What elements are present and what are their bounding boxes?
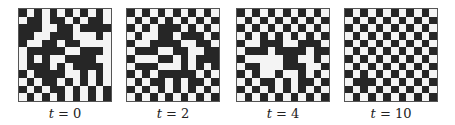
grid-cell <box>391 93 399 101</box>
grid-cell <box>345 47 353 55</box>
panel-label: t = 2 <box>126 106 220 121</box>
grid-cell <box>142 86 150 94</box>
grid-cell <box>65 17 73 25</box>
grid-cell <box>429 78 437 86</box>
grid-cell <box>65 9 73 17</box>
grid-cell <box>422 24 430 32</box>
grid-cell <box>19 55 27 63</box>
grid-cell <box>127 86 135 94</box>
panel-t0: t = 0 <box>18 8 114 102</box>
grid-cell <box>275 17 283 25</box>
grid-cell <box>150 93 158 101</box>
grid-cell <box>429 9 437 17</box>
grid-cell <box>173 78 181 86</box>
grid-cell <box>422 9 430 17</box>
grid-cell <box>150 55 158 63</box>
grid-cell <box>27 24 35 32</box>
grid-cell <box>391 78 399 86</box>
grid-cell <box>196 47 204 55</box>
grid-cell <box>19 9 27 17</box>
grid-cell <box>173 93 181 101</box>
grid-cell <box>73 47 81 55</box>
panel-t4: t = 4 <box>236 8 332 102</box>
grid-cell <box>27 17 35 25</box>
grid-cell <box>135 63 143 71</box>
grid-cell <box>383 32 391 40</box>
grid-cell <box>19 86 27 94</box>
grid-cell <box>127 17 135 25</box>
grid-cell <box>237 40 245 48</box>
grid-cell <box>204 93 212 101</box>
grid-cell <box>181 32 189 40</box>
grid-cell <box>188 70 196 78</box>
grid-cell <box>252 24 260 32</box>
grid-cell <box>360 24 368 32</box>
grid-cell <box>42 55 50 63</box>
panel-label: t = 0 <box>18 106 112 121</box>
grid-cell <box>34 47 42 55</box>
grid-cell <box>298 70 306 78</box>
grid-cell <box>34 63 42 71</box>
grid-cell <box>298 32 306 40</box>
grid-cell <box>42 17 50 25</box>
grid-cell <box>353 63 361 71</box>
grid-cell <box>291 63 299 71</box>
grid-cell <box>173 63 181 71</box>
grid-cell <box>204 86 212 94</box>
grid-cell <box>188 9 196 17</box>
grid-cell <box>142 78 150 86</box>
grid-cell <box>360 86 368 94</box>
grid-cell <box>65 55 73 63</box>
grid-cell <box>376 55 384 63</box>
grid-cell <box>414 63 422 71</box>
grid-cell <box>103 63 111 71</box>
grid-cell <box>422 40 430 48</box>
grid-cell <box>353 24 361 32</box>
grid-cell <box>103 55 111 63</box>
grid-cell <box>65 24 73 32</box>
grid-cell <box>27 55 35 63</box>
grid-cell <box>275 63 283 71</box>
grid-cell <box>150 40 158 48</box>
grid-cell <box>103 40 111 48</box>
grid-cell <box>414 47 422 55</box>
panel-label: t = 10 <box>344 106 438 121</box>
grid-cell <box>314 17 322 25</box>
grid-cell <box>65 93 73 101</box>
grid-cell <box>345 17 353 25</box>
grid-cell <box>188 55 196 63</box>
grid-cell <box>275 55 283 63</box>
grid-cell <box>383 24 391 32</box>
grid-cell <box>211 9 219 17</box>
grid-cell <box>158 47 166 55</box>
grid-cell <box>173 70 181 78</box>
grid-cell <box>429 93 437 101</box>
grid-cell <box>135 17 143 25</box>
grid-cell <box>158 9 166 17</box>
grid-cell <box>298 24 306 32</box>
grid-cell <box>173 55 181 63</box>
grid-cell <box>19 63 27 71</box>
grid-cell <box>353 47 361 55</box>
grid-cell <box>50 40 58 48</box>
label-value: 2 <box>181 106 189 121</box>
grid-cell <box>88 24 96 32</box>
grid-cell <box>50 70 58 78</box>
grid-cell <box>165 40 173 48</box>
grid-cell <box>314 78 322 86</box>
grid-cell <box>27 40 35 48</box>
checkerboard-grid <box>18 8 112 102</box>
grid-cell <box>245 47 253 55</box>
grid-cell <box>88 63 96 71</box>
grid-cell <box>42 40 50 48</box>
grid-cell <box>103 93 111 101</box>
grid-cell <box>34 32 42 40</box>
grid-cell <box>237 55 245 63</box>
grid-cell <box>376 24 384 32</box>
grid-cell <box>204 78 212 86</box>
grid-cell <box>291 32 299 40</box>
grid-cell <box>50 24 58 32</box>
grid-cell <box>321 86 329 94</box>
grid-cell <box>314 9 322 17</box>
grid-cell <box>188 93 196 101</box>
